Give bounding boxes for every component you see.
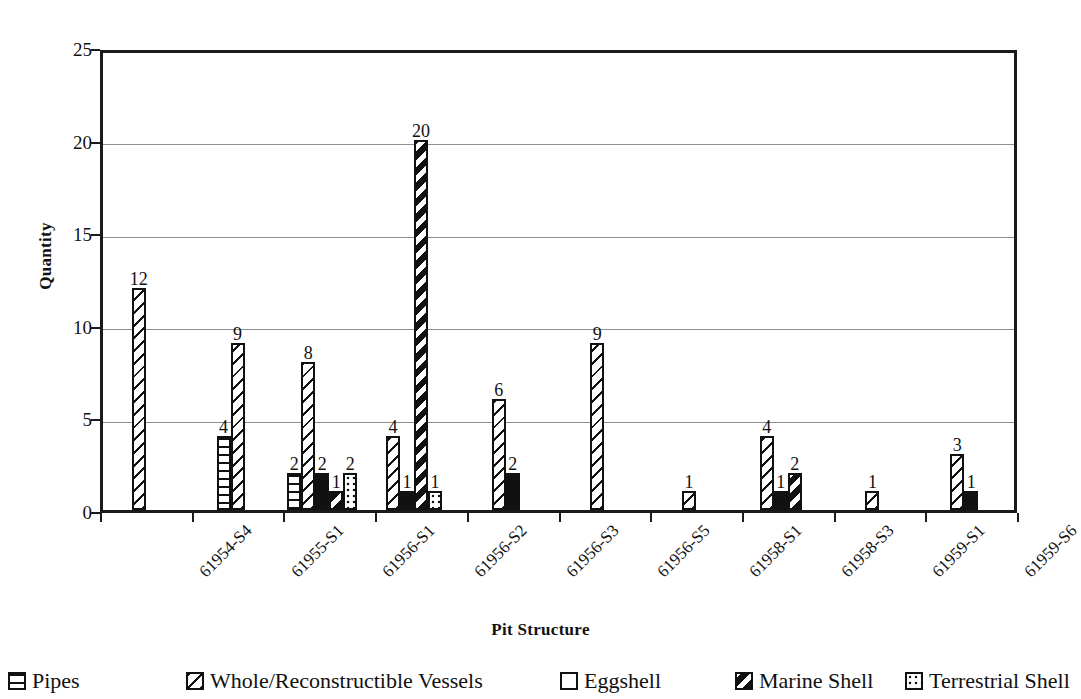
- bar: [682, 491, 696, 510]
- bar: [132, 288, 146, 510]
- y-axis-tick-labels: 0510152025: [52, 0, 92, 699]
- bar-value-label: 2: [335, 455, 365, 473]
- gridline: [103, 237, 1014, 238]
- y-tickmark: [91, 327, 100, 329]
- bar-value-label: 1: [956, 473, 986, 491]
- bar: [774, 491, 788, 510]
- y-tick-label: 10: [73, 318, 92, 337]
- bar: [428, 491, 442, 510]
- legend-item: Marine Shell: [735, 670, 873, 692]
- bar-value-label: 8: [293, 344, 323, 362]
- bar-chart: Quantity 0510152025 12492821241201629141…: [0, 0, 1081, 699]
- x-tickmark: [283, 513, 285, 522]
- gridline: [103, 144, 1014, 145]
- bar-value-label: 9: [223, 325, 253, 343]
- bar: [329, 491, 343, 510]
- bold-diagonal-swatch: [735, 672, 753, 690]
- x-tick-label: 61959-S6: [1021, 521, 1081, 582]
- x-tickmark: [834, 513, 836, 522]
- y-tick-label: 25: [73, 40, 92, 59]
- bar-value-label: 6: [484, 381, 514, 399]
- x-tickmark: [650, 513, 652, 522]
- y-tick-label: 20: [73, 133, 92, 152]
- x-tickmark: [742, 513, 744, 522]
- bar-value-label: 1: [420, 473, 450, 491]
- legend-label: Pipes: [32, 670, 80, 692]
- bar-value-label: 1: [674, 473, 704, 491]
- y-tickmark: [91, 142, 100, 144]
- bar: [343, 473, 357, 510]
- bar: [590, 343, 604, 510]
- bar: [217, 436, 231, 510]
- x-tickmark: [467, 513, 469, 522]
- legend-label: Marine Shell: [759, 670, 873, 692]
- x-tickmark: [375, 513, 377, 522]
- x-tick-label: 61958-S3: [837, 521, 898, 582]
- diagonal-hatch-swatch: [186, 672, 204, 690]
- y-tickmark: [91, 234, 100, 236]
- legend-label: Terrestrial Shell: [929, 670, 1070, 692]
- legend-item: Pipes: [8, 670, 80, 692]
- bar-value-label: 4: [752, 418, 782, 436]
- solid-black-swatch: [560, 672, 578, 690]
- x-tickmark: [192, 513, 194, 522]
- chart-legend: PipesWhole/Reconstructible VesselsEggshe…: [0, 662, 1081, 699]
- bar: [231, 343, 245, 510]
- y-tickmark: [91, 49, 100, 51]
- bar-value-label: 12: [124, 270, 154, 288]
- bar: [964, 491, 978, 510]
- x-tick-label: 61958-S1: [745, 521, 806, 582]
- bar: [287, 473, 301, 510]
- legend-label: Eggshell: [584, 670, 661, 692]
- y-tickmark: [91, 419, 100, 421]
- bar-value-label: 9: [582, 325, 612, 343]
- bar-value-label: 2: [307, 455, 337, 473]
- horizontal-lines-swatch: [8, 672, 26, 690]
- y-tick-label: 15: [73, 225, 92, 244]
- bar: [865, 491, 879, 510]
- plot-area: 124928212412016291412131: [100, 50, 1017, 513]
- x-tick-label: 61955-S1: [287, 521, 348, 582]
- legend-item: Eggshell: [560, 670, 661, 692]
- x-tick-label: 61954-S4: [195, 521, 256, 582]
- x-tickmark: [559, 513, 561, 522]
- legend-label: Whole/Reconstructible Vessels: [210, 670, 483, 692]
- legend-item: Whole/Reconstructible Vessels: [186, 670, 483, 692]
- x-axis-title: Pit Structure: [0, 620, 1081, 640]
- bar-value-label: 4: [378, 418, 408, 436]
- y-tickmark: [91, 512, 100, 514]
- x-tickmark: [100, 513, 102, 522]
- x-tickmark: [1017, 513, 1019, 522]
- bar-value-label: 2: [498, 455, 528, 473]
- bar: [788, 473, 802, 510]
- bar-value-label: 3: [942, 436, 972, 454]
- bar: [506, 473, 520, 510]
- legend-item: Terrestrial Shell: [905, 670, 1070, 692]
- x-tickmark: [925, 513, 927, 522]
- x-tick-label: 61956-S5: [654, 521, 715, 582]
- bar: [301, 362, 315, 510]
- x-tick-label: 61956-S3: [562, 521, 623, 582]
- bar-value-label: 1: [857, 473, 887, 491]
- bar-value-label: 20: [406, 122, 436, 140]
- stipple-dots-swatch: [905, 672, 923, 690]
- bar-value-label: 2: [780, 455, 810, 473]
- x-tick-label: 61956-S1: [379, 521, 440, 582]
- bar: [400, 491, 414, 510]
- x-tick-label: 61956-S2: [470, 521, 531, 582]
- bar: [414, 140, 428, 510]
- x-tick-label: 61959-S1: [929, 521, 990, 582]
